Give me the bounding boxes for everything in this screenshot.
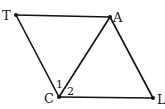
parallelogram-diagram: T A C L 1 2 [0, 0, 165, 109]
point-L-dot [151, 96, 155, 100]
segment-AL [110, 17, 153, 98]
label-A: A [112, 10, 123, 25]
point-C-dot [57, 95, 61, 99]
segment-TA [16, 15, 110, 17]
point-T-dot [14, 13, 18, 17]
point-A-dot [108, 15, 112, 19]
segment-TC [16, 15, 59, 97]
angle-label-2: 2 [67, 85, 74, 98]
angle-label-1: 1 [56, 78, 63, 91]
label-T: T [2, 8, 11, 23]
label-L: L [157, 92, 165, 107]
label-C: C [44, 91, 54, 106]
